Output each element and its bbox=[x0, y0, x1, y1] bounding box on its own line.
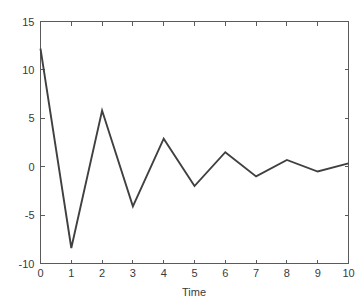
y-tick-label: -5 bbox=[25, 209, 35, 221]
x-tick-label: 9 bbox=[315, 267, 321, 279]
x-axis-title: Time bbox=[182, 286, 206, 298]
x-tick-label: 3 bbox=[130, 267, 136, 279]
x-tick-label: 8 bbox=[284, 267, 290, 279]
x-tick-label: 2 bbox=[99, 267, 105, 279]
figure-canvas: 012345678910 -10-5051015 Time bbox=[0, 0, 363, 305]
x-tick-label: 5 bbox=[191, 267, 197, 279]
x-tick-label: 4 bbox=[161, 267, 167, 279]
x-tick-label: 7 bbox=[253, 267, 259, 279]
x-tick-label: 0 bbox=[37, 267, 43, 279]
x-tick-label: 6 bbox=[222, 267, 228, 279]
chart-background bbox=[0, 0, 363, 305]
y-tick-label: 10 bbox=[22, 64, 34, 76]
y-tick-label: -10 bbox=[19, 258, 35, 270]
x-tick-label: 10 bbox=[342, 267, 354, 279]
y-tick-label: 5 bbox=[28, 112, 34, 124]
y-tick-label: 0 bbox=[28, 161, 34, 173]
line-chart: 012345678910 -10-5051015 Time bbox=[0, 0, 363, 305]
y-tick-label: 15 bbox=[22, 16, 34, 28]
x-tick-label: 1 bbox=[68, 267, 74, 279]
